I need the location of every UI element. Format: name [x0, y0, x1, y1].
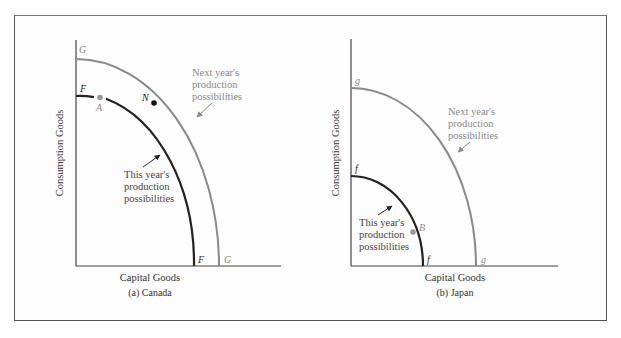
japan-y-axis-title: Consumption Goods — [330, 110, 341, 197]
japan-next-year-line2: production — [448, 118, 494, 129]
canada-x-axis-title: Capital Goods — [120, 272, 180, 283]
canada-this-year-line3: possibilities — [124, 193, 174, 204]
canada-this-year-line2: production — [124, 181, 170, 192]
canada-point-n-label: N — [141, 92, 150, 103]
canada-next-year-line3: possibilities — [192, 91, 242, 102]
canada-caption: (a) Canada — [128, 287, 172, 299]
ppf-figure: A N G F F G Next year's production possi… — [0, 0, 621, 338]
canada-next-year-line1: Next year's — [192, 67, 239, 78]
canada-this-year-curve-start — [76, 96, 94, 97]
canada-g-x-intercept-label: G — [224, 254, 231, 265]
canada-next-year-arrow — [197, 103, 212, 117]
japan-f-y-intercept-label: f — [355, 163, 359, 174]
japan-this-year-annotation: This year's production possibilities — [359, 206, 409, 252]
panel-japan: B g f f g Next year's production possibi… — [330, 39, 558, 299]
japan-this-year-line2: production — [359, 229, 405, 240]
japan-next-year-line1: Next year's — [448, 106, 495, 117]
panel-canada: A N G F F G Next year's production possi… — [54, 40, 281, 299]
japan-x-axis-title: Capital Goods — [425, 272, 485, 283]
canada-point-a — [97, 95, 103, 101]
japan-point-b-label: B — [419, 222, 425, 233]
canada-next-year-line2: production — [192, 79, 238, 90]
japan-next-year-arrow — [458, 142, 470, 152]
canada-y-axis-title: Consumption Goods — [54, 110, 65, 197]
japan-g-x-intercept-label: g — [481, 254, 486, 265]
canada-g-y-intercept-label: G — [79, 44, 86, 55]
japan-this-year-arrow — [378, 206, 392, 215]
japan-g-y-intercept-label: g — [355, 75, 360, 86]
canada-this-year-arrow — [143, 155, 160, 167]
canada-next-year-annotation: Next year's production possibilities — [192, 67, 242, 117]
japan-caption: (b) Japan — [437, 287, 474, 299]
canada-this-year-annotation: This year's production possibilities — [124, 155, 174, 204]
canada-point-a-label: A — [95, 102, 103, 113]
canada-f-y-intercept-label: F — [79, 83, 87, 94]
japan-this-year-line1: This year's — [359, 217, 404, 228]
canada-this-year-line1: This year's — [124, 169, 169, 180]
japan-point-b — [410, 229, 416, 235]
japan-this-year-line3: possibilities — [359, 241, 409, 252]
japan-next-year-annotation: Next year's production possibilities — [448, 106, 498, 152]
canada-f-x-intercept-label: F — [197, 254, 205, 265]
canada-point-n — [151, 100, 157, 106]
japan-next-year-line3: possibilities — [448, 130, 498, 141]
japan-f-x-intercept-label: f — [427, 254, 431, 265]
